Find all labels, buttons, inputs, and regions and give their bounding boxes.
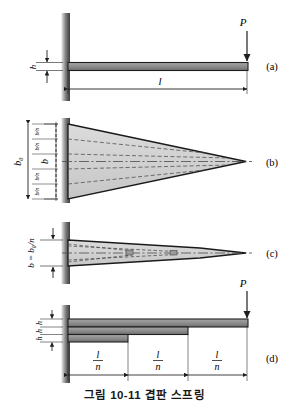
thickness-label-d-2: h — [35, 329, 44, 333]
panel-label-d: (d) — [266, 353, 279, 365]
leaf-d-2 — [68, 327, 188, 335]
thickness-label-d-1: h — [35, 321, 44, 325]
segment-den-d-1: n — [96, 361, 101, 372]
panel-c: b = b₀/n (c) — [26, 222, 278, 284]
strip-label-b-1: b/n — [33, 128, 40, 136]
panel-a: P h l (a) — [28, 13, 278, 101]
length-label-a: l — [158, 75, 161, 87]
leaf-end-marker-c-1 — [126, 250, 133, 255]
figure-caption: 그림 10-11 겹판 스프링 — [0, 386, 289, 402]
leaf-end-marker-c-2 — [170, 251, 177, 256]
load-label-a: P — [239, 16, 247, 28]
panel-label-c: (c) — [266, 248, 278, 260]
thickness-label-a: h — [28, 64, 38, 69]
width-outer-label-b: b₀ — [12, 157, 23, 166]
thickness-label-d-3: h — [35, 337, 44, 341]
strip-label-b-2: b/n — [33, 143, 40, 151]
segment-fraction-d-1: l n — [93, 349, 103, 372]
wall-support-a — [61, 13, 70, 101]
segment-num-d-1: l — [97, 349, 100, 360]
panel-b: b₀ b b/n b/n b/n b/n (b) — [12, 118, 279, 203]
panel-label-a: (a) — [266, 61, 278, 73]
load-label-d: P — [239, 277, 247, 289]
segment-den-d-2: n — [156, 361, 161, 372]
leaf-d-1 — [68, 319, 248, 327]
strip-label-b-3: b/n — [33, 173, 40, 181]
segment-num-d-3: l — [216, 349, 219, 360]
beam-a — [68, 63, 248, 71]
leaf-d-3 — [68, 335, 128, 343]
segment-fraction-d-3: l n — [212, 349, 222, 372]
panel-d: P h h h l n l n l n — [35, 277, 279, 383]
panel-label-b: (b) — [266, 157, 279, 169]
segment-den-d-3: n — [215, 361, 220, 372]
wall-support-d — [61, 305, 70, 383]
width-inner-label-b: b — [39, 159, 50, 164]
figure-leaf-spring: P h l (a) b₀ b — [0, 0, 289, 415]
segment-fraction-d-2: l n — [153, 349, 163, 372]
segment-num-d-2: l — [157, 349, 160, 360]
width-label-c: b = b₀/n — [26, 238, 36, 268]
strip-label-b-4: b/n — [33, 188, 40, 196]
